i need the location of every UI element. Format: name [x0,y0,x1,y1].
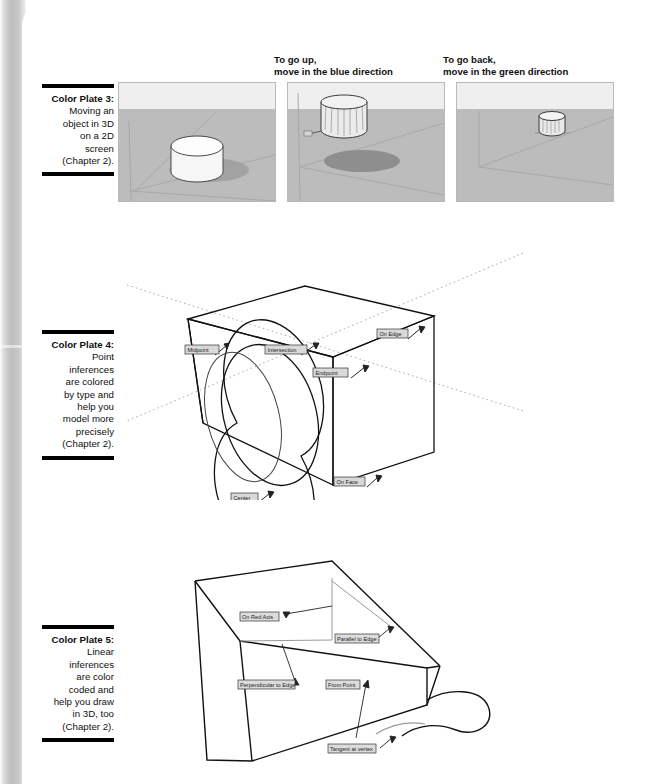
caption-line: on a 2D [38,130,114,142]
caption-line: Point [38,351,114,363]
caption-line: (Chapter 2). [38,438,114,450]
scene-1-graphics [119,83,275,201]
caption-line: object in 3D [38,118,114,130]
caption-line: are color [38,671,114,683]
panel-caption-green-direction: To go back, move in the green direction [443,54,613,77]
label-on-edge: On Edge [377,329,408,338]
panel-caption-line: To go up, [274,54,434,66]
leader-arrows [215,326,425,500]
caption-line: Linear [38,646,114,658]
caption-rule-top [42,625,114,629]
caption-line: help you draw [38,696,114,708]
caption-line: screen [38,143,114,155]
panel-caption-line: move in the green direction [443,66,613,78]
caption-line: are colored [38,376,114,388]
label-on-face: On Face [334,477,365,486]
panel-caption-blue-direction: To go up, move in the blue direction [274,54,434,77]
panel-caption-line: To go back, [443,54,613,66]
caption-line: inferences [38,364,114,376]
scene-2-graphics [288,83,444,201]
viewport-panel-3 [456,82,614,202]
svg-text:Endpoint: Endpoint [316,370,339,376]
point-inference-figure: Midpoint Intersection On Edge Endpoint O… [125,245,525,500]
svg-text:Perpendicular to Edge: Perpendicular to Edge [240,682,295,688]
caption-line: inferences [38,659,114,671]
svg-text:On Edge: On Edge [380,331,402,337]
svg-text:Midpoint: Midpoint [188,347,210,353]
label-tangent-at-vertex: Tangent at vertex [328,744,376,753]
label-intersection: Intersection [265,345,307,354]
label-midpoint: Midpoint [185,345,219,354]
cylinder-circle-inner [192,344,294,489]
caption-rule-bottom [42,456,114,460]
label-from-point: From Point [326,680,360,689]
caption-color-plate-5: Color Plate 5: Linear inferences are col… [38,625,114,742]
caption-line: in 3D, too [38,708,114,720]
caption-lead: Color Plate 5: [38,634,114,646]
scene-3-graphics [457,83,613,201]
inference-tags: On Red Axis Parallel to Edge Perpendicul… [238,612,379,753]
caption-line: by type and [38,389,114,401]
svg-text:On Red Axis: On Red Axis [242,614,273,620]
caption-line: precisely [38,426,114,438]
label-endpoint: Endpoint [313,368,348,377]
label-on-red-axis: On Red Axis [240,612,279,621]
freeform-curve [402,692,490,736]
viewport-panel-1 [118,82,276,202]
svg-text:On Face: On Face [337,479,358,485]
caption-lead: Color Plate 4: [38,339,114,351]
svg-text:From Point: From Point [328,682,356,688]
svg-text:Center: Center [234,495,251,500]
svg-text:Parallel to Edge: Parallel to Edge [337,636,377,642]
caption-color-plate-3: Color Plate 3: Moving an object in 3D on… [38,84,114,176]
panel-caption-line: move in the blue direction [274,66,434,78]
caption-rule-top [42,84,114,88]
caption-rule-bottom [42,172,114,176]
caption-line: (Chapter 2). [38,155,114,167]
svg-text:Intersection: Intersection [268,347,297,353]
leader-arrows [282,606,396,748]
caption-line: Moving an [38,105,114,117]
inference-guide-lines [240,578,390,641]
caption-line: model more [38,413,114,425]
caption-rule-top [42,330,114,334]
caption-line: coded and [38,684,114,696]
caption-rule-bottom [42,738,114,742]
caption-color-plate-4: Color Plate 4: Point inferences are colo… [38,330,114,460]
caption-lead: Color Plate 3: [38,93,114,105]
label-center: Center [231,493,258,500]
label-perpendicular-to-edge: Perpendicular to Edge [238,680,295,689]
inference-tags: Midpoint Intersection On Edge Endpoint O… [185,329,408,500]
viewport-panel-2 [287,82,445,202]
svg-text:Tangent at vertex: Tangent at vertex [330,746,373,752]
open-box-wireframe [195,561,440,761]
linear-inference-figure: On Red Axis Parallel to Edge Perpendicul… [180,548,515,778]
inference-axis-dotted-lines [127,253,523,421]
label-parallel-to-edge: Parallel to Edge [335,634,379,643]
caption-line: (Chapter 2). [38,721,114,733]
caption-line: help you [38,401,114,413]
